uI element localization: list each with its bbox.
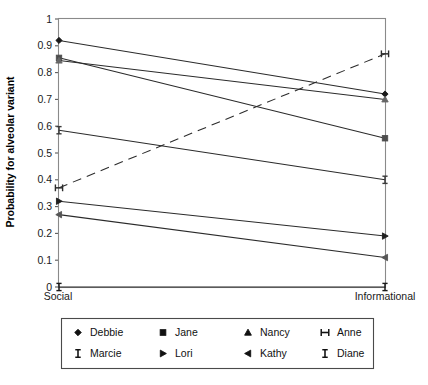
y-tick-label: 0.4 <box>37 173 52 185</box>
legend-label: Diane <box>337 347 365 359</box>
chart-figure: Probability for alveolar variant 00.10.2… <box>0 0 428 385</box>
y-tick-label: 0.6 <box>37 120 52 132</box>
y-tick-label: 1 <box>46 13 52 25</box>
y-axis-title-text: Probability for alveolar variant <box>4 76 16 228</box>
series-marker-square <box>160 330 166 336</box>
chart-background <box>0 0 428 385</box>
legend-label: Debbie <box>90 326 123 338</box>
y-tick-label: 0.7 <box>37 93 52 105</box>
y-tick-label: 0.9 <box>37 39 52 51</box>
y-tick-label: 0.1 <box>37 254 52 266</box>
legend-label: Kathy <box>260 347 288 359</box>
y-tick-label: 0.8 <box>37 66 52 78</box>
y-tick-label: 0.3 <box>37 200 52 212</box>
series-marker-square <box>382 136 387 141</box>
y-axis-title: Probability for alveolar variant <box>4 76 16 228</box>
line-chart: Probability for alveolar variant 00.10.2… <box>0 0 428 385</box>
legend-label: Nancy <box>260 326 291 338</box>
legend-label: Marcie <box>90 347 122 359</box>
x-tick-label-informational: Informational <box>355 290 416 302</box>
legend-label: Jane <box>175 326 198 338</box>
x-tick-label-social: Social <box>44 290 73 302</box>
y-tick-label: 0.2 <box>37 227 52 239</box>
y-tick-label: 0.5 <box>37 147 52 159</box>
legend-label: Lori <box>175 347 193 359</box>
legend-label: Anne <box>337 326 362 338</box>
